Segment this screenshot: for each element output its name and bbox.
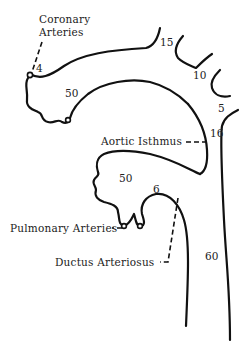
left-subclavian-value: 5	[218, 102, 225, 114]
coronary-arteries-label-line2: Arteries	[38, 26, 84, 38]
coronary-arteries-label-line1: Coronary	[39, 13, 90, 25]
fetal-circulation-diagram: Coronary Arteries Aortic Isthmus Pulmona…	[0, 0, 251, 345]
aortic-isthmus-wall	[188, 104, 207, 174]
pulmonary-arteries-value: 6	[153, 183, 160, 195]
ductus-arteriosus-label: Ductus Arteriosus	[55, 256, 154, 268]
aortic-isthmus-label: Aortic Isthmus	[100, 135, 182, 147]
pulmonary-arteries-label: Pulmonary Arteries	[10, 222, 117, 234]
brachiocephalic-artery-right-wall	[176, 36, 212, 68]
left-carotid-value: 10	[193, 69, 206, 81]
coronary-ostium-marker	[27, 72, 32, 77]
brachiocephalic-value: 15	[160, 36, 173, 48]
ascending-aorta-value: 50	[65, 87, 78, 99]
pulmonary-trunk-value: 50	[119, 172, 132, 184]
coronary-value: 4	[36, 62, 43, 74]
pulmonary-trunk-wall	[93, 151, 200, 226]
ductus-arteriosus-leader	[160, 198, 178, 262]
ascending-aorta-lobe-marker	[66, 118, 71, 123]
left-carotid-artery-wall	[211, 70, 230, 97]
ascending-aorta-wall	[26, 78, 188, 123]
descending-aorta-value: 60	[205, 250, 218, 262]
pulmonary-artery-right-marker	[138, 224, 143, 229]
pulmonary-artery-left-marker	[122, 224, 127, 229]
left-subclavian-artery-wall	[221, 110, 238, 340]
isthmus-value: 16	[210, 127, 224, 139]
